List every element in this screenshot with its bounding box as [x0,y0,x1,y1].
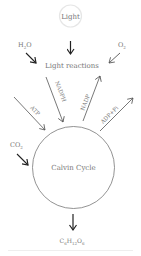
bottom-divider [8,250,133,251]
nadph-label: NADPH [54,80,67,103]
h2o-label: H2O [18,41,32,50]
light-node: Light [60,5,82,27]
calvin-cycle-node: Calvin Cycle [33,127,115,209]
light-reactions-label: Light reactions [45,62,99,70]
co2-label: CO2 [10,141,23,150]
photosynthesis-diagram: Light H2O O2 Light reactions ATP NADPH N… [0,0,141,256]
o2-label: O2 [118,41,126,50]
h2o-arrow [26,53,36,63]
calvin-cycle-label: Calvin Cycle [51,164,95,172]
co2-arrow [17,154,28,165]
o2-arrow [109,53,120,63]
light-label: Light [61,13,80,21]
nadp-label: NADP [79,93,91,111]
glucose-label: C6H12O6 [60,237,85,246]
atp-arrow [14,97,45,130]
